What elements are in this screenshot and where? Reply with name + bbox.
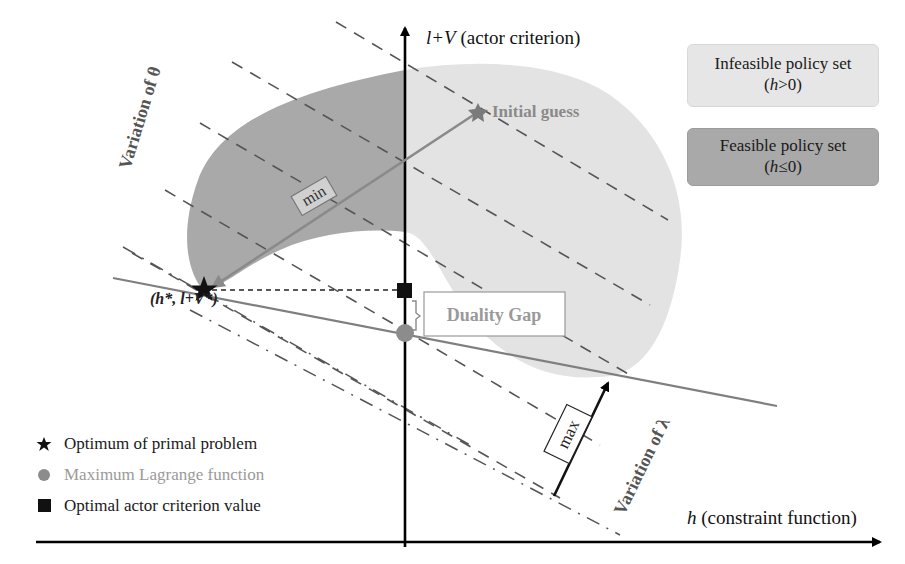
optimal-criterion-square-icon — [397, 283, 412, 298]
circle-icon — [24, 468, 64, 482]
square-icon — [24, 499, 64, 512]
feasible-set-legend: Feasible policy set (h≤0) — [687, 128, 879, 186]
marker-key: Optimum of primal problem Maximum Lagran… — [24, 428, 264, 521]
feasible-set-title: Feasible policy set — [688, 135, 878, 156]
infeasible-set-condition: (h>0) — [688, 74, 878, 95]
duality-gap-brace — [412, 301, 420, 330]
initial-guess-label: Initial guess — [492, 102, 580, 121]
lagrange-max-circle-icon — [396, 324, 414, 342]
infeasible-set-legend: Infeasible policy set (h>0) — [687, 44, 879, 107]
variation-theta-label: Variation of θ — [115, 64, 165, 171]
duality-gap-label: Duality Gap — [447, 305, 542, 325]
feasible-set-condition: (h≤0) — [688, 156, 878, 177]
key-item-primal-optimum: Optimum of primal problem — [24, 428, 264, 459]
key-item-optimal-criterion: Optimal actor criterion value — [24, 490, 264, 521]
infeasible-set-title: Infeasible policy set — [688, 53, 878, 74]
y-axis-label: l+V (actor criterion) — [426, 27, 580, 49]
variation-lambda-label: Variation of λ — [610, 414, 674, 517]
star-icon — [24, 436, 64, 452]
key-item-lagrange-max: Maximum Lagrange function — [24, 459, 264, 490]
x-axis-label: h (constraint function) — [687, 507, 857, 529]
optimum-point-label: (h*, l+V*) — [150, 290, 218, 308]
